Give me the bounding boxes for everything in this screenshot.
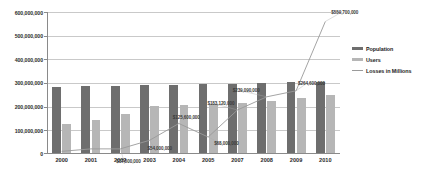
y-tick-label: 400,000,000	[0, 57, 43, 63]
losses-line-path	[62, 21, 326, 151]
y-tick-label: 0	[0, 151, 43, 157]
data-label: $68,000,000	[214, 141, 238, 146]
chart-container: 600,000,000 500,000,000 400,000,000 300,…	[0, 0, 425, 174]
y-tick-label: 500,000,000	[0, 33, 43, 39]
line-series-losses	[47, 12, 340, 154]
y-tick-label: 200,000,000	[0, 104, 43, 110]
legend-item-population[interactable]: Population	[352, 44, 424, 53]
legend-swatch-users	[352, 58, 363, 61]
data-label: $264,600,000	[298, 81, 325, 86]
y-tick-label: 100,000,000	[0, 128, 43, 134]
data-label: $183,120,000	[207, 101, 234, 106]
data-label: $559,700,000	[331, 10, 358, 15]
chart-legend: Population Users Losses in Millions	[352, 44, 424, 77]
legend-label: Losses in Millions	[366, 68, 412, 74]
data-label: $125,600,000	[173, 115, 200, 120]
data-label: $239,090,000	[233, 88, 260, 93]
legend-swatch-losses	[352, 70, 363, 71]
y-tick-label: 300,000,000	[0, 80, 43, 86]
legend-label: Users	[366, 57, 381, 63]
legend-item-users[interactable]: Users	[352, 55, 424, 64]
plot-area: $17,500,000$54,000,000$125,600,000$68,00…	[47, 12, 340, 154]
x-tick-label: 2010	[305, 157, 345, 163]
legend-label: Population	[366, 46, 393, 52]
data-label: $54,000,000	[148, 146, 172, 151]
legend-item-losses[interactable]: Losses in Millions	[352, 66, 424, 75]
legend-swatch-population	[352, 47, 363, 50]
y-tick-label: 600,000,000	[0, 10, 43, 16]
x-axis-labels: 2000200120022003200420052007200820092010	[47, 157, 340, 169]
